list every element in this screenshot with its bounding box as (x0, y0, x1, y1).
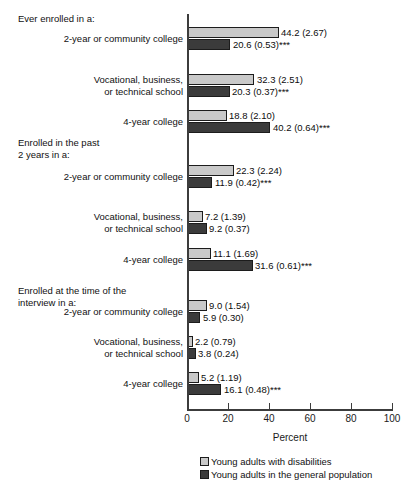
bar-value-label: 11.1 (1.69) (211, 248, 258, 259)
category-label: Vocational, business, or technical schoo… (3, 336, 183, 359)
bar-light (188, 27, 279, 38)
bar-light (188, 248, 211, 259)
legend-label: Young adults with disabilities (211, 455, 332, 468)
bar-value-label: 5.2 (1.19) (199, 372, 242, 383)
bar-value-label: 2.2 (0.79) (193, 336, 236, 347)
category-label: 4-year college (3, 378, 183, 390)
bar-value-label: 18.8 (2.10) (227, 110, 275, 121)
bar-dark (188, 223, 207, 234)
bar-value-label: 32.3 (2.51) (255, 74, 303, 85)
bar-light (188, 372, 199, 383)
bar-dark (188, 86, 230, 97)
x-axis-tick (392, 403, 393, 410)
bar-dark (188, 39, 230, 50)
category-label: 4-year college (3, 254, 183, 266)
bar-dark (188, 260, 253, 271)
bar-value-label: 9.0 (1.54) (207, 300, 250, 311)
bar-light (188, 211, 203, 222)
x-axis-title: Percent (187, 432, 393, 443)
category-label: 4-year college (3, 116, 183, 128)
bar-chart: Ever enrolled in a: Enrolled in the past… (0, 0, 417, 491)
bar-value-label: 40.2 (0.64)*** (271, 122, 330, 133)
bar-value-label: 44.2 (2.67) (279, 27, 327, 38)
x-axis-tick-label: 40 (254, 413, 284, 425)
legend-swatch-icon (200, 470, 209, 479)
bar-value-label: 7.2 (1.39) (203, 211, 246, 222)
bar-light (188, 110, 227, 121)
bar-value-label: 22.3 (2.24) (234, 165, 282, 176)
category-label: 2-year or community college (3, 33, 183, 45)
value-axis-baseline (187, 14, 189, 410)
bar-value-label: 3.8 (0.24) (196, 348, 239, 359)
bar-dark (188, 177, 212, 188)
x-axis-tick-label: 60 (295, 413, 325, 425)
x-axis-tick (228, 403, 229, 410)
bar-value-label: 5.9 (0.30) (201, 312, 244, 323)
chart-legend: Young adults with disabilities Young adu… (200, 455, 372, 481)
x-axis-tick-label: 20 (213, 413, 243, 425)
section-header-at-interview: Enrolled at the time of the interview in… (18, 285, 126, 308)
x-axis-tick-label: 0 (172, 413, 202, 425)
x-axis-tick-label: 100 (377, 413, 407, 425)
legend-label: Young adults in the general population (211, 468, 372, 481)
bar-value-label: 11.9 (0.42)*** (213, 177, 271, 188)
bar-value-label: 16.1 (0.48)*** (222, 384, 281, 395)
bar-value-label: 20.3 (0.37)*** (230, 86, 289, 97)
section-header-past-2-years: Enrolled in the past 2 years in a: (18, 137, 99, 160)
legend-item-general-population: Young adults in the general population (200, 468, 372, 481)
x-axis-tick (269, 403, 270, 410)
x-axis-tick (351, 403, 352, 410)
category-label: Vocational, business, or technical schoo… (3, 74, 183, 97)
bar-light (188, 74, 254, 85)
bar-light (188, 165, 234, 176)
bar-value-label: 31.6 (0.61)*** (253, 260, 312, 271)
section-header-ever-enrolled: Ever enrolled in a: (18, 13, 95, 25)
legend-swatch-icon (200, 457, 209, 466)
category-label: Vocational, business, or technical schoo… (3, 211, 183, 234)
bar-dark (188, 122, 270, 133)
x-axis-tick-label: 80 (336, 413, 366, 425)
category-label: 2-year or community college (3, 171, 183, 183)
x-axis-tick (187, 403, 188, 410)
bar-dark (188, 384, 221, 395)
x-axis-line (187, 409, 393, 411)
bar-value-label: 20.6 (0.53)*** (231, 39, 290, 50)
bar-value-label: 9.2 (0.37) (207, 223, 250, 234)
legend-item-disabilities: Young adults with disabilities (200, 455, 372, 468)
bar-dark (188, 348, 196, 359)
bar-light (188, 300, 207, 311)
bar-dark (188, 312, 200, 323)
x-axis-tick (310, 403, 311, 410)
category-label: 2-year or community college (3, 306, 183, 318)
